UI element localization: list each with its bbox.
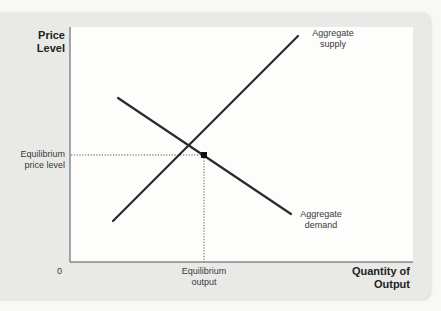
x-axis-title-line-1: Quantity of [340, 265, 410, 278]
aggregate-supply-label-line-1: Aggregate [303, 28, 363, 39]
aggregate-demand-label-line-1: Aggregate [293, 209, 349, 220]
equilibrium-point [201, 152, 207, 158]
x-axis-title: Quantity of Output [340, 265, 410, 291]
equilibrium-price-label-line-1: Equilibrium [4, 149, 65, 160]
x-axis-title-line-2: Output [340, 278, 410, 291]
aggregate-supply-label: Aggregate supply [303, 28, 363, 50]
aggregate-demand-label-line-2: demand [293, 220, 349, 231]
origin-label: 0 [57, 266, 62, 277]
equilibrium-price-label: Equilibrium price level [4, 149, 65, 171]
equilibrium-output-label: Equilibrium output [174, 266, 234, 288]
y-axis-title: Price Level [14, 29, 65, 55]
aggregate-supply-curve [113, 36, 298, 221]
figure-stage: Price Level Equilibrium price level 0 Eq… [0, 0, 441, 311]
aggregate-demand-label: Aggregate demand [293, 209, 349, 231]
y-axis-title-line-1: Price [14, 29, 65, 42]
aggregate-supply-label-line-2: supply [303, 39, 363, 50]
equilibrium-price-label-line-2: price level [4, 160, 65, 171]
equilibrium-output-label-line-1: Equilibrium [174, 266, 234, 277]
y-axis-title-line-2: Level [14, 42, 65, 55]
equilibrium-output-label-line-2: output [174, 277, 234, 288]
